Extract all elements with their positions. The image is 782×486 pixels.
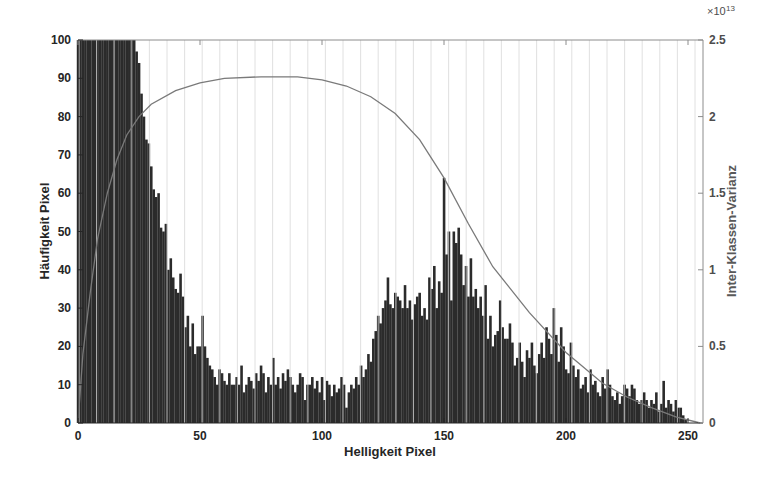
- histogram-bar: [301, 377, 304, 423]
- histogram-bar: [653, 404, 656, 423]
- histogram-bar: [338, 389, 341, 423]
- histogram-bar: [667, 400, 670, 423]
- histogram-chart: 050100150200250010203040506070809010000.…: [0, 0, 782, 486]
- histogram-bar: [213, 377, 216, 423]
- histogram-bar: [438, 281, 441, 423]
- histogram-bar: [618, 404, 621, 423]
- histogram-bar: [350, 385, 353, 423]
- histogram-bar: [326, 381, 329, 423]
- histogram-bar: [579, 389, 582, 423]
- histogram-bars: [77, 40, 687, 423]
- histogram-bar: [221, 373, 224, 423]
- y-tick-label: 90: [58, 71, 72, 85]
- histogram-bar: [477, 308, 480, 423]
- histogram-bar: [135, 51, 138, 423]
- histogram-bar: [567, 373, 570, 423]
- histogram-bar: [396, 297, 399, 423]
- histogram-bar: [509, 323, 512, 423]
- histogram-bar: [101, 40, 104, 423]
- histogram-bar: [260, 366, 263, 423]
- right-y-tick-label: 2.5: [709, 33, 726, 47]
- histogram-bar: [84, 40, 87, 423]
- histogram-bar: [631, 385, 634, 423]
- histogram-bar: [316, 381, 319, 423]
- y-tick-label: 60: [58, 186, 72, 200]
- histogram-bar: [384, 300, 387, 423]
- histogram-bar: [575, 377, 578, 423]
- histogram-bar: [191, 323, 194, 423]
- histogram-bar: [679, 408, 682, 423]
- histogram-bar: [557, 362, 560, 423]
- histogram-bar: [367, 354, 370, 423]
- histogram-bar: [672, 412, 675, 423]
- histogram-bar: [267, 377, 270, 423]
- histogram-bar: [479, 297, 482, 423]
- histogram-bar: [489, 316, 492, 423]
- histogram-bar: [628, 396, 631, 423]
- histogram-bar: [455, 243, 458, 423]
- histogram-bar: [189, 346, 192, 423]
- histogram-bar: [626, 389, 629, 423]
- histogram-bar: [296, 385, 299, 423]
- histogram-bar: [233, 385, 236, 423]
- histogram-bar: [116, 40, 119, 423]
- histogram-bar: [262, 373, 265, 423]
- y-tick-label: 20: [58, 339, 72, 353]
- histogram-bar: [543, 358, 546, 423]
- histogram-bar: [140, 94, 143, 423]
- histogram-bar: [582, 385, 585, 423]
- histogram-bar: [399, 300, 402, 423]
- histogram-bar: [421, 316, 424, 423]
- histogram-bar: [250, 381, 253, 423]
- histogram-bar: [248, 377, 251, 423]
- histogram-bar: [187, 316, 190, 423]
- histogram-bar: [374, 331, 377, 423]
- histogram-bar: [562, 346, 565, 423]
- y-tick-label: 10: [58, 378, 72, 392]
- histogram-bar: [162, 232, 165, 424]
- histogram-bar: [309, 385, 312, 423]
- histogram-bar: [294, 392, 297, 423]
- histogram-bar: [401, 308, 404, 423]
- histogram-bar: [467, 297, 470, 423]
- histogram-bar: [177, 293, 180, 423]
- histogram-bar: [155, 197, 158, 423]
- histogram-bar: [348, 392, 351, 423]
- histogram-bar: [487, 339, 490, 423]
- histogram-bar: [475, 289, 478, 423]
- histogram-bar: [584, 377, 587, 423]
- histogram-bar: [228, 373, 231, 423]
- histogram-bar: [133, 40, 136, 423]
- y-tick-label: 0: [64, 416, 71, 430]
- histogram-bar: [104, 40, 107, 423]
- histogram-bar: [492, 346, 495, 423]
- histogram-bar: [516, 358, 519, 423]
- histogram-bar: [311, 377, 314, 423]
- histogram-bar: [340, 377, 343, 423]
- histogram-bar: [389, 304, 392, 423]
- histogram-bar: [199, 346, 202, 423]
- histogram-bar: [206, 358, 209, 423]
- histogram-bar: [599, 396, 602, 423]
- histogram-bar: [211, 369, 214, 423]
- y-tick-label: 40: [58, 263, 72, 277]
- histogram-bar: [126, 40, 129, 423]
- histogram-bar: [484, 285, 487, 423]
- histogram-bar: [511, 343, 514, 423]
- histogram-bar: [365, 369, 368, 423]
- histogram-bar: [194, 354, 197, 423]
- histogram-bar: [433, 266, 436, 423]
- histogram-bar: [145, 140, 148, 423]
- histogram-bar: [462, 285, 465, 423]
- histogram-bar: [372, 339, 375, 423]
- histogram-bar: [643, 392, 646, 423]
- histogram-bar: [204, 346, 207, 423]
- x-tick-label: 150: [434, 429, 454, 443]
- histogram-bar: [143, 117, 146, 423]
- histogram-bar: [616, 392, 619, 423]
- histogram-bar: [443, 178, 446, 423]
- histogram-bar: [182, 297, 185, 423]
- histogram-bar: [609, 385, 612, 423]
- histogram-bar: [335, 392, 338, 423]
- histogram-bar: [545, 327, 548, 423]
